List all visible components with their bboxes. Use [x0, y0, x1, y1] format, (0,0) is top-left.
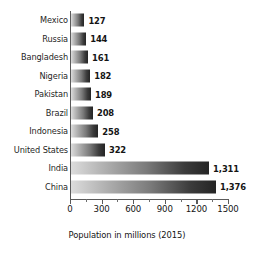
x-tick-minor [181, 199, 182, 202]
bar-with-label: 144 [71, 32, 107, 45]
bar-with-label: 208 [71, 106, 114, 119]
x-tick-label: 600 [125, 205, 141, 214]
bar-with-label: 322 [71, 143, 126, 156]
value-label: 189 [95, 90, 112, 98]
bar-nigeria [71, 69, 90, 82]
category-label-mexico: Mexico [40, 16, 68, 24]
bar-row: India1,311 [0, 159, 254, 178]
x-tick-major [102, 199, 103, 204]
value-label: 1,376 [220, 183, 246, 191]
category-label-nigeria: Nigeria [39, 72, 68, 80]
x-tick-label: 1500 [217, 205, 238, 214]
bar-russia [71, 32, 86, 45]
bar-with-label: 189 [71, 88, 112, 101]
x-tick-label: 900 [157, 205, 173, 214]
bar-brazil [71, 106, 93, 119]
x-tick-label: 300 [94, 205, 110, 214]
bar-row: Russia144 [0, 30, 254, 49]
bar-with-label: 182 [71, 69, 111, 82]
category-label-russia: Russia [42, 35, 68, 43]
plot-area: Mexico127Russia144Bangladesh161Nigeria18… [0, 0, 254, 210]
x-tick-major [133, 199, 134, 204]
bar-with-label: 161 [71, 51, 109, 64]
bar-row: United States322 [0, 141, 254, 160]
bar-row: Indonesia258 [0, 122, 254, 141]
bar-india [71, 162, 209, 175]
bar-row: China1,376 [0, 178, 254, 197]
bar-with-label: 1,376 [71, 180, 246, 193]
bar-mexico [71, 14, 84, 27]
bar-row: Pakistan189 [0, 85, 254, 104]
category-label-united-states: United States [14, 146, 68, 154]
bar-row: Bangladesh161 [0, 48, 254, 67]
category-label-china: China [45, 183, 68, 191]
value-label: 208 [97, 109, 114, 117]
category-label-indonesia: Indonesia [29, 127, 68, 135]
value-label: 144 [90, 35, 107, 43]
value-label: 182 [94, 72, 111, 80]
value-label: 161 [92, 53, 109, 61]
x-tick-major [165, 199, 166, 204]
bar-row: Mexico127 [0, 11, 254, 30]
x-tick-minor [86, 199, 87, 202]
bar-bangladesh [71, 51, 88, 64]
bar-with-label: 1,311 [71, 162, 239, 175]
bar-row: Brazil208 [0, 104, 254, 123]
category-label-brazil: Brazil [46, 109, 68, 117]
bar-row: Nigeria182 [0, 67, 254, 86]
x-tick-minor [117, 199, 118, 202]
bar-indonesia [71, 125, 98, 138]
x-tick-major [228, 199, 229, 204]
bar-chart: Mexico127Russia144Bangladesh161Nigeria18… [0, 0, 254, 253]
category-label-bangladesh: Bangladesh [21, 53, 68, 61]
value-label: 322 [109, 146, 126, 154]
x-tick-minor [149, 199, 150, 202]
x-axis-ticks: 030060090012001500 [0, 199, 254, 219]
bar-united-states [71, 143, 105, 156]
value-label: 258 [102, 127, 119, 135]
x-axis-title: Population in millions (2015) [0, 231, 254, 239]
bar-china [71, 180, 216, 193]
x-tick-label: 1200 [186, 205, 207, 214]
category-label-india: India [48, 164, 68, 172]
x-tick-major [196, 199, 197, 204]
bar-with-label: 127 [71, 14, 106, 27]
category-label-pakistan: Pakistan [35, 90, 69, 98]
x-tick-major [70, 199, 71, 204]
x-tick-minor [212, 199, 213, 202]
bar-pakistan [71, 88, 91, 101]
value-label: 1,311 [213, 164, 239, 172]
value-label: 127 [88, 16, 105, 24]
bar-rows: Mexico127Russia144Bangladesh161Nigeria18… [0, 11, 254, 196]
bar-with-label: 258 [71, 125, 119, 138]
x-tick-label: 0 [67, 205, 72, 214]
